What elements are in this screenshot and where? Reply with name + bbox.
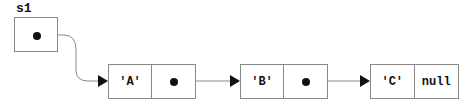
variable-label: s1 — [16, 1, 32, 16]
pointer-dot-icon — [302, 78, 310, 86]
pointer-dot-icon — [33, 32, 41, 40]
node-value: 'C' — [371, 65, 415, 98]
arrowhead-icon — [230, 75, 240, 87]
node-C: 'C' null — [370, 64, 459, 99]
arrowhead-icon — [360, 75, 370, 87]
node-A: 'A' — [108, 64, 196, 99]
arrowhead-icon — [98, 75, 108, 87]
node-B: 'B' — [240, 64, 328, 99]
variable-box — [14, 17, 58, 52]
pointer-dot-icon — [170, 78, 178, 86]
node-next-null: null — [415, 65, 459, 98]
node-next — [284, 65, 327, 98]
node-next — [152, 65, 195, 98]
node-value: 'A' — [109, 65, 152, 98]
node-value: 'B' — [241, 65, 284, 98]
